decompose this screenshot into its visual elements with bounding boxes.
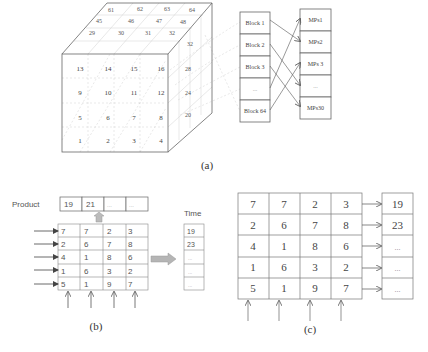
matrix-c-cell: 6: [281, 261, 287, 273]
cube-top-cell: 29: [89, 30, 95, 36]
result-cell: ...: [395, 243, 401, 252]
matrix-b-cell: 7: [107, 240, 112, 249]
matrix-b-cell: 3: [128, 227, 133, 236]
cube-right-cell: 32: [187, 41, 193, 47]
cube-front-cell: 4: [159, 137, 163, 145]
time-label: Time: [184, 209, 202, 218]
cube-front-cell: 11: [131, 89, 138, 97]
mps-label: MPs30: [307, 105, 324, 111]
cube-top-cell: 61: [108, 7, 114, 13]
matrix-c-cell: 2: [312, 198, 318, 210]
matrix-b-cell: 1: [84, 253, 89, 262]
matrix-c-cell: 1: [281, 282, 287, 294]
matrix-b-cell: 1: [61, 267, 66, 276]
matrix-b-cell: 1: [84, 280, 89, 289]
cube-front-cell: 6: [106, 114, 110, 122]
matrix-c-cell: 3: [312, 261, 318, 273]
panel-a: 13 14 15 16 9 10 11 12 5 6 7 8 1 2 3 4 6…: [62, 3, 331, 172]
cube-front-cell: 15: [131, 65, 139, 73]
matrix-c-cell: 1: [250, 261, 256, 273]
panel-c: 7 7 2 3 2 6 7 8 4 1 8 6 1 6 3 2 5 1 9 7: [238, 193, 413, 336]
matrix-c-cell: 7: [343, 282, 349, 294]
cube-front-cell: 9: [78, 89, 82, 97]
column-input-arrows: [68, 292, 135, 308]
matrix-c-cell: 2: [343, 261, 349, 273]
mps-label: MPs 3: [308, 61, 324, 67]
panel-b: Product 19 21 ... ...: [12, 197, 204, 333]
mps-label: MPs2: [308, 39, 322, 45]
matrix-c: 7 7 2 3 2 6 7 8 4 1 8 6 1 6 3 2 5 1 9 7: [238, 193, 362, 299]
cube-front-cell: 10: [105, 89, 113, 97]
time-cell: ...: [188, 282, 192, 288]
product-row: 19 21 ... ...: [60, 197, 148, 211]
time-cell: ...: [188, 255, 192, 261]
mps-label: ...: [313, 83, 318, 89]
cube-top-cell: 63: [164, 6, 170, 12]
cube-top-cell: 30: [118, 30, 124, 36]
matrix-b-cell: 7: [61, 227, 66, 236]
matrix-b-cell: 2: [61, 240, 66, 249]
matrix-c-cell: 6: [343, 240, 349, 252]
cube-top-cell: 48: [180, 19, 186, 25]
row-input-arrows: [34, 231, 58, 284]
matrix-c-cell: 8: [312, 240, 318, 252]
gray-right-arrow-icon: [151, 253, 176, 265]
row-output-arrows: [362, 204, 381, 289]
matrix-c-cell: 2: [250, 219, 256, 231]
matrix-b-cell: 5: [61, 280, 66, 289]
matrix-c-cell: 3: [343, 198, 349, 210]
time-cell: 19: [187, 228, 195, 235]
cube-right-cell: 24: [185, 90, 191, 96]
mapping-arrows: [270, 19, 300, 110]
cube-top-cell: 45: [96, 18, 102, 24]
matrix-c-cell: 1: [281, 240, 287, 252]
time-cell: ...: [188, 269, 192, 275]
matrix-c-cell: 8: [343, 219, 349, 231]
results-column: 19 23 ... ... ...: [382, 193, 413, 299]
block-label: Block 64: [244, 108, 266, 114]
cube: 13 14 15 16 9 10 11 12 5 6 7 8 1 2 3 4 6…: [62, 3, 212, 152]
cube-front-cell: 1: [78, 137, 82, 145]
caption-a: (a): [201, 159, 214, 172]
cube-front-cell: 12: [158, 89, 166, 97]
matrix-b-cell: 8: [128, 240, 133, 249]
matrix-b-cell: 6: [84, 240, 89, 249]
caption-b: (b): [90, 320, 103, 333]
block-label: Block 1: [246, 20, 265, 26]
matrix-b-cell: 7: [128, 280, 133, 289]
cube-front-cell: 3: [132, 137, 136, 145]
cube-front-cell: 7: [132, 114, 136, 122]
matrix-c-cell: 7: [312, 219, 318, 231]
cube-right-cell: 20: [185, 112, 191, 118]
cube-top-cell: 31: [145, 30, 151, 36]
matrix-b-cell: 4: [61, 253, 66, 262]
block-label: Block 3: [246, 64, 265, 70]
matrix-b-cell: 2: [107, 227, 112, 236]
matrix-b-cell: 7: [84, 227, 89, 236]
result-cell: ...: [395, 285, 401, 294]
matrix-c-cell: 4: [250, 240, 256, 252]
product-cell: 21: [86, 200, 95, 209]
matrix-c-cell: 5: [250, 282, 256, 294]
cube-right-cell: 28: [185, 66, 191, 72]
matrix-b-cell: 6: [84, 267, 89, 276]
figure: 13 14 15 16 9 10 11 12 5 6 7 8 1 2 3 4 6…: [0, 0, 428, 352]
matrix-c-cell: 7: [281, 198, 287, 210]
matrix-c-cell: 9: [312, 282, 318, 294]
cube-front-cell: 8: [159, 114, 163, 122]
time-cell: 23: [187, 241, 195, 248]
result-cell: ...: [395, 264, 401, 273]
cube-front-cell: 5: [78, 114, 82, 122]
block-label: ...: [253, 86, 258, 92]
product-cell: ...: [107, 202, 112, 208]
cube-front-cell: 16: [158, 65, 166, 73]
cube-front-cell: 14: [105, 65, 113, 73]
result-cell: 19: [392, 198, 404, 210]
cube-top-cell: 47: [156, 18, 162, 24]
caption-c: (c): [304, 323, 317, 336]
mps-column: MPs1 MPs2 MPs 3 ... MPs30: [300, 9, 331, 119]
cube-top-cell: 62: [137, 6, 143, 12]
product-cell: ...: [129, 202, 134, 208]
matrix-b-cell: 3: [107, 267, 112, 276]
mps-label: MPs1: [308, 17, 322, 23]
